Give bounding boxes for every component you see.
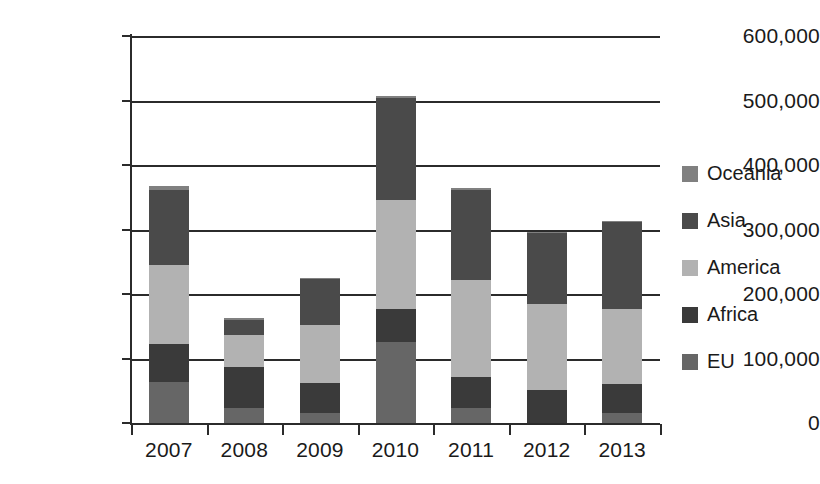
- bar-segment-america-2012[interactable]: [527, 304, 567, 390]
- bar-segment-america-2007[interactable]: [149, 265, 189, 344]
- bar-2010[interactable]: [376, 96, 416, 423]
- chart-legend: OceaniaAsiaAmericaAfricaEU: [682, 150, 782, 385]
- bar-segment-eu-2011[interactable]: [451, 408, 491, 423]
- y-axis-tick-label: 500,000: [708, 89, 820, 113]
- bar-segment-asia-2009[interactable]: [300, 279, 340, 325]
- stacked-bar-chart: 0100,000200,000300,000400,000500,000600,…: [0, 0, 820, 484]
- legend-label: Asia: [707, 209, 746, 232]
- bar-segment-america-2010[interactable]: [376, 200, 416, 308]
- legend-swatch-icon: [682, 307, 698, 323]
- y-axis-tick: [122, 100, 131, 102]
- legend-item-asia[interactable]: Asia: [682, 197, 782, 244]
- bar-2011[interactable]: [451, 188, 491, 423]
- bar-segment-eu-2010[interactable]: [376, 342, 416, 423]
- bar-2013[interactable]: [602, 221, 642, 423]
- bar-segment-america-2009[interactable]: [300, 325, 340, 383]
- bar-segment-eu-2007[interactable]: [149, 382, 189, 423]
- bar-2007[interactable]: [149, 186, 189, 423]
- legend-label: Africa: [707, 303, 758, 326]
- plot-area: [131, 36, 660, 423]
- x-axis-label-2008: 2008: [204, 438, 284, 462]
- legend-label: EU: [707, 350, 735, 373]
- legend-item-africa[interactable]: Africa: [682, 291, 782, 338]
- y-axis-tick: [122, 358, 131, 360]
- legend-swatch-icon: [682, 354, 698, 370]
- bar-segment-africa-2012[interactable]: [527, 390, 567, 423]
- bar-2012[interactable]: [527, 232, 567, 423]
- legend-item-oceania[interactable]: Oceania: [682, 150, 782, 197]
- legend-swatch-icon: [682, 166, 698, 182]
- bar-segment-eu-2013[interactable]: [602, 413, 642, 423]
- x-axis-tick: [131, 424, 133, 435]
- x-axis-tick: [584, 424, 586, 435]
- x-axis-label-2009: 2009: [280, 438, 360, 462]
- y-axis-tick: [122, 293, 131, 295]
- legend-swatch-icon: [682, 260, 698, 276]
- x-axis-tick: [207, 424, 209, 435]
- y-axis-tick-label: 600,000: [708, 24, 820, 48]
- bar-segment-asia-2012[interactable]: [527, 233, 567, 304]
- x-axis-tick: [282, 424, 284, 435]
- y-axis-tick: [122, 422, 131, 424]
- bar-2008[interactable]: [224, 318, 264, 423]
- legend-item-america[interactable]: America: [682, 244, 782, 291]
- bar-segment-america-2013[interactable]: [602, 309, 642, 384]
- x-axis-label-2010: 2010: [356, 438, 436, 462]
- bar-segment-eu-2009[interactable]: [300, 413, 340, 423]
- x-axis-label-2012: 2012: [507, 438, 587, 462]
- x-axis-line: [131, 423, 660, 425]
- y-axis-tick: [122, 164, 131, 166]
- bar-segment-america-2008[interactable]: [224, 335, 264, 367]
- x-axis-label-2011: 2011: [431, 438, 511, 462]
- bar-segment-asia-2013[interactable]: [602, 222, 642, 308]
- x-axis-tick: [509, 424, 511, 435]
- y-axis-tick-label: 0: [708, 411, 820, 435]
- gridline: [131, 36, 660, 38]
- bar-segment-america-2011[interactable]: [451, 280, 491, 377]
- bar-segment-africa-2009[interactable]: [300, 383, 340, 413]
- bar-segment-africa-2008[interactable]: [224, 367, 264, 408]
- legend-label: America: [707, 256, 780, 279]
- bar-segment-africa-2011[interactable]: [451, 377, 491, 407]
- x-axis-tick: [358, 424, 360, 435]
- bar-segment-africa-2010[interactable]: [376, 309, 416, 343]
- legend-swatch-icon: [682, 213, 698, 229]
- bar-segment-asia-2010[interactable]: [376, 98, 416, 201]
- legend-label: Oceania: [707, 162, 782, 185]
- x-axis-label-2013: 2013: [582, 438, 662, 462]
- bar-segment-africa-2013[interactable]: [602, 384, 642, 412]
- bar-segment-asia-2008[interactable]: [224, 320, 264, 334]
- bar-segment-eu-2008[interactable]: [224, 408, 264, 423]
- x-axis-tick: [433, 424, 435, 435]
- y-axis-tick: [122, 35, 131, 37]
- bar-segment-asia-2007[interactable]: [149, 190, 189, 265]
- bar-segment-africa-2007[interactable]: [149, 344, 189, 383]
- x-axis-label-2007: 2007: [129, 438, 209, 462]
- y-axis-tick: [122, 229, 131, 231]
- x-axis-tick: [660, 424, 662, 435]
- legend-item-eu[interactable]: EU: [682, 338, 782, 385]
- bar-segment-asia-2011[interactable]: [451, 190, 491, 280]
- bar-2009[interactable]: [300, 278, 340, 423]
